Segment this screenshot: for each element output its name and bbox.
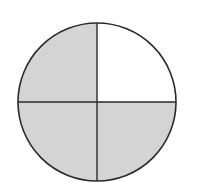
quadrant-top-left — [18, 23, 97, 102]
fraction-circle-diagram — [0, 0, 200, 182]
quadrant-top-right — [97, 23, 176, 102]
quadrant-bottom-right — [97, 102, 176, 181]
quadrant-bottom-left — [18, 102, 97, 181]
